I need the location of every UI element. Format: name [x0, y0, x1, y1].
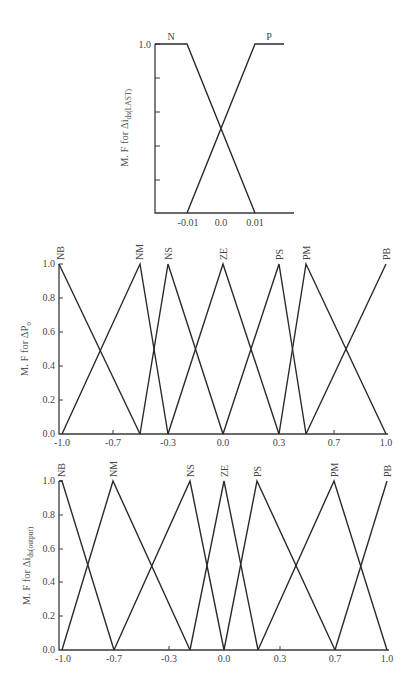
mf-label-pb: PB [382, 464, 393, 477]
x-tick-label: -0.7 [106, 653, 122, 664]
y-tick-label: 0.6 [43, 543, 56, 554]
mf-curve-ps [223, 264, 306, 434]
x-tick-label: -1.0 [54, 437, 70, 448]
mf-label-nm: NM [134, 244, 145, 260]
mf-label-n: N [167, 31, 174, 42]
x-tick-label: 0.7 [329, 653, 342, 664]
x-tick-label: 1.0 [380, 437, 393, 448]
x-tick-label: 0.0 [215, 217, 228, 228]
x-tick-label: -0.3 [161, 653, 177, 664]
y-tick-label: 0.2 [43, 610, 56, 621]
figure: 1.0 -0.01 0.0 0.01 N P M. F for Δids(LAS… [0, 0, 412, 679]
x-tick-label: 0.7 [328, 437, 341, 448]
y-tick-label: 0.2 [43, 394, 56, 405]
mf-curve-pm [279, 264, 386, 434]
x-tick-label: -0.3 [160, 437, 176, 448]
axes [155, 44, 294, 213]
mf-label-ps: PS [274, 249, 285, 260]
axes [59, 264, 388, 434]
y-axis-label: M. F for Δids(LAST) [119, 88, 133, 167]
y-ticks [155, 44, 160, 180]
y-tick-label: 1.0 [43, 475, 56, 486]
x-tick-label: 0.3 [274, 653, 287, 664]
mf-curve-ps [224, 481, 335, 650]
y-axis-label: M. F for ΔPo [19, 322, 33, 377]
x-tick-label: -0.7 [105, 437, 121, 448]
chart-last-current: 1.0 -0.01 0.0 0.01 N P M. F for Δids(LAS… [119, 31, 294, 228]
mf-curve-pm [258, 481, 387, 650]
y-tick-label: 0.0 [43, 644, 56, 655]
mf-label-nb: NB [56, 463, 67, 477]
axes [59, 481, 389, 650]
y-tick-label: 0.6 [43, 326, 56, 337]
y-tick-label: 1.0 [43, 258, 56, 269]
mf-label-ze: ZE [218, 248, 229, 260]
y-tick-label: 1.0 [139, 39, 152, 50]
mf-curve-ze [190, 481, 258, 650]
y-tick-label: 0.8 [43, 509, 56, 520]
mf-label-nb: NB [55, 246, 66, 260]
mf-curve-n [155, 44, 255, 213]
chart-output-current: 0.0 0.2 0.4 0.6 0.8 1.0 -1.0 -0.7 -0.3 0… [21, 461, 393, 664]
x-tick-label: 1.0 [381, 653, 394, 664]
y-tick-label: 0.4 [43, 576, 56, 587]
mf-label-pm: PM [301, 245, 312, 260]
mf-label-ns: NS [163, 247, 174, 260]
x-tick-label: -1.0 [55, 653, 71, 664]
x-tick-label: 0.0 [217, 437, 230, 448]
mf-curve-p [187, 44, 284, 213]
mf-label-nm: NM [108, 461, 119, 477]
mf-label-p: P [266, 31, 272, 42]
mf-curve-ns [140, 264, 223, 434]
y-tick-label: 0.8 [43, 292, 56, 303]
mf-curve-nm [62, 264, 168, 434]
x-tick-label: 0.3 [273, 437, 286, 448]
x-tick-label: 0.0 [218, 653, 231, 664]
y-tick-label: 0.4 [43, 360, 56, 371]
mf-label-ze: ZE [219, 465, 230, 477]
y-axis-label: M. F for Δids(output) [21, 526, 35, 605]
mf-curve-ze [168, 264, 279, 434]
x-tick-label: -0.01 [178, 217, 199, 228]
mf-label-pb: PB [381, 247, 392, 260]
mf-label-ns: NS [185, 464, 196, 477]
mf-label-pm: PM [329, 462, 340, 477]
x-tick-label: 0.01 [246, 217, 264, 228]
chart-power-change: 0.0 0.2 0.4 0.6 0.8 1.0 -1.0 -0.7 -0.3 0… [19, 244, 392, 448]
mf-label-ps: PS [252, 466, 263, 477]
